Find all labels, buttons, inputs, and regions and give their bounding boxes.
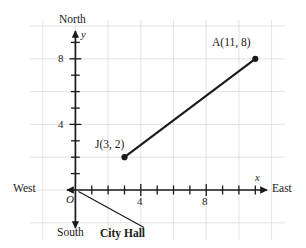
grid-lines [30,20,285,240]
east-label: East [272,183,292,195]
north-label: North [59,14,86,26]
point-a [252,56,258,62]
x-tick-label-8: 8 [202,196,208,207]
segment-ja [125,59,256,157]
point-j [121,154,127,160]
point-j-label: J(3, 2) [95,139,124,151]
x-axis-variable-label: x [255,173,260,184]
y-tick-label-4: 4 [58,119,64,130]
coordinate-plane-svg [0,0,306,248]
y-tick-label-8: 8 [58,53,64,64]
coordinate-grid-figure: North South West East y x O 4 8 4 8 J(3,… [0,0,306,248]
south-label: South [57,227,84,239]
west-label: West [13,183,36,195]
origin-label: O [66,194,74,205]
city-hall-leader-line [79,192,145,228]
x-tick-label-4: 4 [137,196,143,207]
city-hall-callout-label: City Hall [100,228,145,240]
y-axis-variable-label: y [81,30,86,41]
point-a-label: A(11, 8) [212,37,251,49]
